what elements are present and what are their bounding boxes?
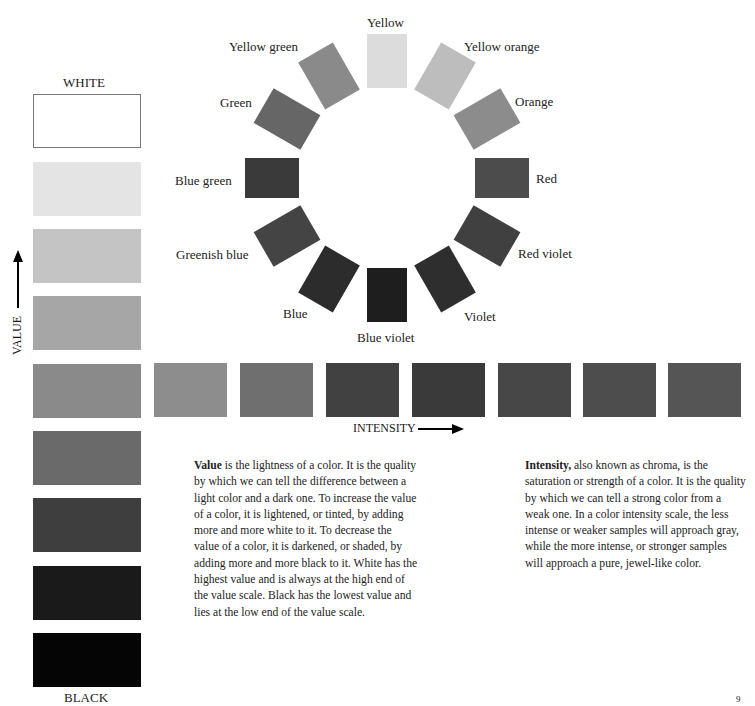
wheel-label-greenish-blue: Greenish blue [176, 247, 249, 263]
value-swatch-6 [33, 431, 141, 485]
wheel-swatch-green [254, 88, 321, 150]
value-paragraph: Value is the lightness of a color. It is… [194, 458, 419, 621]
wheel-label-orange: Orange [515, 94, 553, 110]
wheel-swatch-red-violet [454, 205, 521, 267]
value-body: is the lightness of a color. It is the q… [194, 459, 417, 619]
intensity-swatch-4 [412, 363, 485, 417]
intensity-body: also known as chroma, is the saturation … [525, 459, 746, 570]
wheel-swatch-yellow-green [298, 43, 360, 110]
wheel-label-red: Red [536, 171, 557, 187]
wheel-label-violet: Violet [464, 309, 496, 325]
black-label: BLACK [64, 690, 108, 706]
wheel-label-red-violet: Red violet [518, 246, 572, 262]
value-swatch-8 [33, 566, 141, 620]
value-swatch-5 [33, 364, 141, 418]
wheel-swatch-greenish-blue [254, 205, 321, 267]
value-swatch-7 [33, 498, 141, 552]
wheel-swatch-orange [454, 88, 521, 150]
value-swatch-9 [33, 633, 141, 687]
value-swatch-4 [33, 296, 141, 350]
intensity-swatch-2 [240, 363, 313, 417]
right-arrow-icon [418, 423, 464, 435]
wheel-label-blue: Blue [283, 306, 308, 322]
wheel-label-green: Green [220, 95, 252, 111]
intensity-axis-label: INTENSITY [353, 421, 416, 436]
value-axis: VALUE [6, 250, 30, 360]
page-number: 9 [736, 694, 741, 704]
value-swatch-2 [33, 162, 141, 216]
intensity-swatch-6 [583, 363, 656, 417]
up-arrow-icon [6, 250, 30, 310]
intensity-swatch-7 [668, 363, 741, 417]
intensity-term: Intensity, [525, 459, 571, 472]
wheel-swatch-violet [414, 246, 476, 313]
intensity-paragraph: Intensity, also known as chroma, is the … [525, 458, 747, 572]
intensity-swatch-1 [154, 363, 227, 417]
value-term: Value [194, 459, 222, 472]
value-swatch-3 [33, 229, 141, 283]
wheel-swatch-yellow [367, 34, 407, 88]
wheel-label-yellow-orange: Yellow orange [464, 39, 540, 55]
wheel-swatch-blue-violet [367, 268, 407, 322]
wheel-label-blue-green: Blue green [175, 173, 232, 189]
white-label: WHITE [63, 75, 105, 91]
intensity-swatch-3 [326, 363, 399, 417]
intensity-swatch-5 [498, 363, 571, 417]
wheel-label-yellow-green: Yellow green [229, 39, 298, 55]
wheel-swatch-blue [298, 246, 360, 313]
wheel-label-yellow: Yellow [367, 15, 404, 31]
intensity-axis: INTENSITY [353, 421, 464, 436]
value-swatch-1 [33, 94, 141, 148]
value-axis-label: VALUE [10, 311, 25, 361]
wheel-swatch-red [475, 158, 529, 198]
wheel-swatch-blue-green [245, 158, 299, 198]
wheel-label-blue-violet: Blue violet [357, 330, 414, 346]
